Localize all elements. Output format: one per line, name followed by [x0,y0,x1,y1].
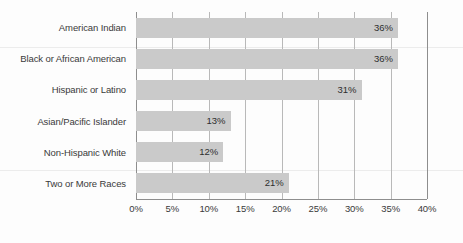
category-label: Hispanic or Latino [0,84,126,95]
category-label: American Indian [0,22,126,33]
bar-value-label: 31% [136,80,362,100]
x-tick-label: 40% [407,203,447,214]
bar-chart-figure: American IndianBlack or African American… [0,0,463,243]
gridline-40pct [427,12,428,199]
category-label: Black or African American [0,53,126,64]
category-axis: American IndianBlack or African American… [0,12,131,199]
category-label: Two or More Races [0,178,126,189]
x-tick-label: 20% [262,203,302,214]
x-axis-tick-labels: 0%5%10%15%20%25%30%35%40% [136,203,427,219]
x-tick-label: 35% [371,203,411,214]
x-tick-label: 5% [152,203,192,214]
category-label: Asian/Pacific Islander [0,116,126,127]
x-tick-label: 15% [225,203,265,214]
x-tick-label: 10% [189,203,229,214]
bar-value-label: 21% [136,173,289,193]
bars-layer: 36%36%31%13%12%21% [136,12,427,199]
x-tick-label: 30% [334,203,374,214]
plot-area: 36%36%31%13%12%21% [136,12,427,199]
x-tick-label: 0% [116,203,156,214]
bar-value-label: 13% [136,111,231,131]
x-axis-baseline [136,199,427,200]
category-label: Non-Hispanic White [0,147,126,158]
bar-value-label: 36% [136,18,398,38]
bar-value-label: 12% [136,142,223,162]
x-tick-label: 25% [298,203,338,214]
bar-value-label: 36% [136,49,398,69]
